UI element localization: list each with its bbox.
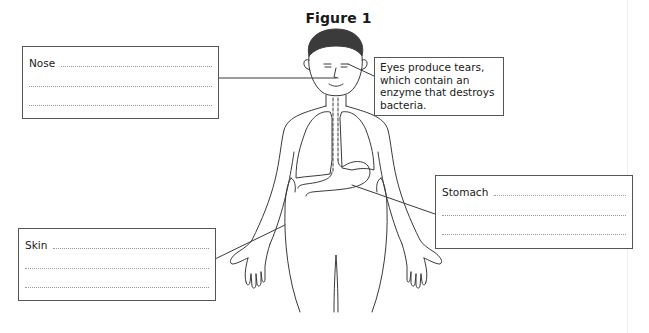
eyes-info-box: Eyes produce tears, which contain an enz… (374, 57, 504, 116)
stomach-connector (352, 185, 435, 214)
dotted-rule (25, 268, 209, 269)
eyes-info-line-4: bacteria. (380, 99, 498, 112)
skin-connector (215, 225, 285, 259)
skin-answer-line-1[interactable]: Skin (25, 237, 209, 251)
stomach-answer-line-3[interactable] (442, 223, 626, 237)
stomach-label-box: Stomach (435, 175, 633, 249)
skin-label: Skin (25, 239, 47, 251)
lungs (296, 112, 374, 178)
eyes-info-line-3: enzyme that destroys (380, 86, 498, 99)
torso-sides (285, 178, 387, 312)
stomach-answer-line-2[interactable] (442, 204, 626, 218)
dotted-rule (25, 287, 209, 288)
dotted-rule (53, 248, 209, 249)
eyes-info-line-2: which contain an (380, 74, 498, 87)
nose-answer-line-3[interactable] (29, 94, 212, 108)
eyes-info-line-1: Eyes produce tears, (380, 61, 498, 74)
stomach-answer-line-1[interactable]: Stomach (442, 184, 626, 198)
skin-answer-line-2[interactable] (25, 257, 209, 271)
dotted-rule (29, 105, 212, 106)
dotted-rule (29, 86, 212, 87)
head (304, 29, 367, 96)
skin-answer-line-3[interactable] (25, 276, 209, 290)
nose-answer-line-1[interactable]: Nose (29, 55, 212, 69)
nose-label: Nose (29, 57, 55, 69)
esophagus (333, 98, 338, 172)
stomach (298, 160, 370, 196)
nose-label-box: Nose (22, 46, 219, 119)
stomach-label: Stomach (442, 186, 488, 198)
dotted-rule (61, 66, 212, 67)
nose-answer-line-2[interactable] (29, 75, 212, 89)
dotted-rule (442, 215, 626, 216)
skin-label-box: Skin (18, 228, 216, 301)
dotted-rule (442, 234, 626, 235)
dotted-rule (494, 195, 626, 196)
